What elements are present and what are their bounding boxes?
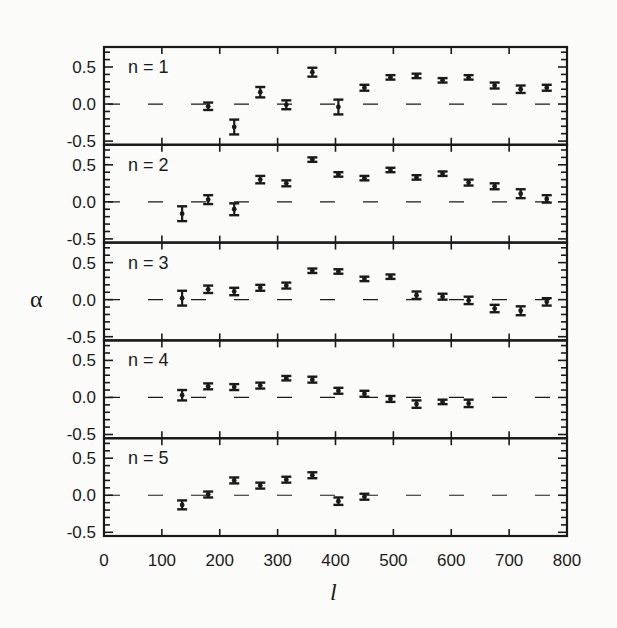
data-point xyxy=(359,176,369,181)
data-point xyxy=(281,100,291,109)
panel-n4: 0.50.0-0.5n = 4 xyxy=(67,340,567,444)
data-point xyxy=(385,274,395,279)
data-point xyxy=(359,391,369,397)
data-point xyxy=(385,75,395,80)
data-point xyxy=(307,68,317,77)
y-tick-label: 0.5 xyxy=(72,351,96,370)
data-point xyxy=(542,298,552,305)
x-tick-label: 500 xyxy=(379,551,407,570)
data-point xyxy=(359,85,369,91)
panel-label: n = 1 xyxy=(128,57,169,77)
panel-n2: 0.50.0-0.5n = 2 xyxy=(67,145,567,249)
data-point xyxy=(464,180,474,186)
data-point xyxy=(412,175,422,180)
y-tick-label: 0.5 xyxy=(72,254,96,273)
panel-frame xyxy=(104,145,567,243)
data-point xyxy=(177,206,187,221)
data-point xyxy=(333,269,343,274)
data-point xyxy=(490,83,500,89)
data-point xyxy=(255,285,265,291)
panel-frame xyxy=(104,47,567,145)
data-point xyxy=(333,388,343,394)
data-point xyxy=(490,305,500,312)
data-point xyxy=(490,183,500,189)
y-tick-label: 0.5 xyxy=(72,449,96,468)
y-tick-label: 0.0 xyxy=(72,486,96,505)
panel-label: n = 4 xyxy=(128,350,169,370)
data-point xyxy=(333,497,343,504)
data-point xyxy=(229,203,239,215)
y-tick-label: -0.5 xyxy=(67,523,96,542)
data-point xyxy=(307,377,317,383)
data-point xyxy=(438,78,448,83)
data-point xyxy=(412,73,422,78)
x-tick-label: 100 xyxy=(148,551,176,570)
data-point xyxy=(359,277,369,282)
data-point xyxy=(229,384,239,390)
data-point xyxy=(412,400,422,407)
data-point xyxy=(281,376,291,381)
x-tick-label: 700 xyxy=(495,551,523,570)
panel-label: n = 2 xyxy=(128,155,169,175)
data-point xyxy=(438,171,448,176)
data-point xyxy=(177,291,187,306)
panel-n1: 0.50.0-0.5n = 1 xyxy=(67,47,567,151)
x-tick-label: 200 xyxy=(206,551,234,570)
data-point xyxy=(438,294,448,300)
data-point xyxy=(255,483,265,489)
data-point xyxy=(516,306,526,315)
data-point xyxy=(307,268,317,273)
panel-frame xyxy=(104,243,567,341)
panel-n5: 0.50.0-0.5n = 5 xyxy=(67,438,567,542)
data-point xyxy=(385,168,395,173)
x-tick-label: 300 xyxy=(263,551,291,570)
y-tick-label: 0.0 xyxy=(72,193,96,212)
data-point xyxy=(464,400,474,407)
panels-group: 0.50.0-0.5n = 10.50.0-0.5n = 20.50.0-0.5… xyxy=(67,47,567,542)
data-point xyxy=(281,477,291,483)
panel-frame xyxy=(104,438,567,536)
data-point xyxy=(333,172,343,177)
data-point xyxy=(542,195,552,202)
panel-label: n = 5 xyxy=(128,448,169,468)
data-point xyxy=(307,472,317,478)
y-tick-label: -0.5 xyxy=(67,230,96,249)
y-tick-label: 0.0 xyxy=(72,95,96,114)
data-point xyxy=(255,87,265,97)
data-point xyxy=(516,86,526,93)
data-point xyxy=(307,157,317,162)
data-point xyxy=(333,100,343,115)
x-tick-label: 600 xyxy=(437,551,465,570)
x-tick-label: 800 xyxy=(553,551,581,570)
y-tick-label: 0.5 xyxy=(72,156,96,175)
data-point xyxy=(177,500,187,509)
data-point xyxy=(542,85,552,91)
data-point xyxy=(281,283,291,289)
panel-label: n = 3 xyxy=(128,253,169,273)
y-tick-label: 0.0 xyxy=(72,291,96,310)
x-tick-label: 0 xyxy=(99,551,108,570)
y-tick-label: 0.0 xyxy=(72,388,96,407)
data-point xyxy=(255,176,265,183)
data-point xyxy=(229,288,239,295)
data-point xyxy=(229,477,239,483)
data-point xyxy=(438,399,448,404)
data-point xyxy=(385,396,395,402)
data-point xyxy=(203,286,213,293)
panel-n3: 0.50.0-0.5n = 3 xyxy=(67,243,567,347)
data-point xyxy=(359,494,369,500)
panel-frame xyxy=(104,340,567,438)
data-point xyxy=(203,195,213,204)
data-point xyxy=(464,297,474,304)
y-tick-label: -0.5 xyxy=(67,132,96,151)
data-point xyxy=(177,390,187,400)
multi-panel-alpha-chart: 0.50.0-0.5n = 10.50.0-0.5n = 20.50.0-0.5… xyxy=(0,0,617,628)
y-tick-label: -0.5 xyxy=(67,328,96,347)
data-point xyxy=(281,180,291,186)
x-axis: 0100200300400500600700800 xyxy=(99,551,581,570)
x-tick-label: 400 xyxy=(321,551,349,570)
y-tick-label: 0.5 xyxy=(72,58,96,77)
data-point xyxy=(516,189,526,198)
data-point xyxy=(255,383,265,389)
y-tick-label: -0.5 xyxy=(67,425,96,444)
